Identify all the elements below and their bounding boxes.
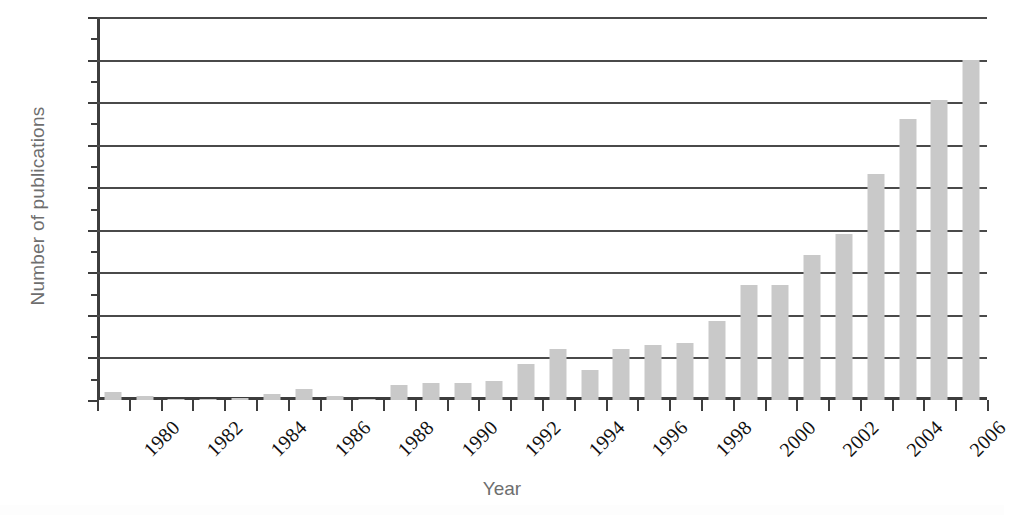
bar: [931, 100, 948, 400]
bar-slot: [478, 17, 510, 400]
bar-slot: [161, 17, 193, 400]
bar: [963, 60, 980, 400]
bar-slot: [733, 17, 765, 400]
bar: [104, 392, 121, 401]
x-tick-mark: [97, 400, 99, 411]
x-tick-mark: [415, 400, 417, 411]
x-tick-mark: [892, 400, 894, 411]
x-tick-label: 1988: [393, 416, 438, 461]
bar-slot: [765, 17, 797, 400]
y-tick-mark: [88, 17, 97, 19]
bar-slot: [256, 17, 288, 400]
bar: [232, 398, 249, 400]
bar-slot: [447, 17, 479, 400]
x-tick-mark: [192, 400, 194, 411]
bar: [613, 349, 630, 400]
bar: [327, 396, 344, 400]
x-tick-mark: [828, 400, 830, 411]
y-axis-title: Number of publications: [27, 76, 49, 336]
bar-slot: [828, 17, 860, 400]
x-tick-mark: [288, 400, 290, 411]
bar: [708, 321, 725, 400]
x-tick-label: 2006: [965, 416, 1010, 461]
bar: [168, 399, 185, 401]
x-tick-label: 2004: [902, 416, 947, 461]
y-tick-mark: [88, 187, 97, 189]
bar: [263, 394, 280, 400]
x-tick-mark: [574, 400, 576, 411]
bar-slot: [510, 17, 542, 400]
x-tick-mark: [669, 400, 671, 411]
bar: [772, 285, 789, 400]
bar: [581, 370, 598, 400]
bar: [645, 345, 662, 400]
bar-slot: [97, 17, 129, 400]
x-tick-mark: [224, 400, 226, 411]
bar-slot: [860, 17, 892, 400]
bar-slot: [669, 17, 701, 400]
x-tick-label: 1998: [711, 416, 756, 461]
x-tick-mark: [923, 400, 925, 411]
x-tick-mark: [383, 400, 385, 411]
x-tick-mark: [955, 400, 957, 411]
x-tick-mark: [542, 400, 544, 411]
x-tick-label: 2002: [838, 416, 883, 461]
bar: [835, 234, 852, 400]
y-tick-mark: [88, 315, 97, 317]
bar: [454, 383, 471, 400]
bar-slot: [288, 17, 320, 400]
bar-slot: [383, 17, 415, 400]
bar: [136, 396, 153, 400]
bar: [804, 255, 821, 400]
x-tick-label: 1986: [330, 416, 375, 461]
bar-slot: [637, 17, 669, 400]
x-tick-mark: [510, 400, 512, 411]
x-tick-mark: [606, 400, 608, 411]
bar: [549, 349, 566, 400]
bar: [740, 285, 757, 400]
bar: [295, 389, 312, 400]
bar-slot: [892, 17, 924, 400]
x-tick-mark: [637, 400, 639, 411]
page-bottom-margin: [0, 505, 1004, 515]
x-tick-mark: [447, 400, 449, 411]
x-tick-mark: [256, 400, 258, 411]
bar: [867, 174, 884, 400]
bar-slot: [129, 17, 161, 400]
x-tick-mark: [796, 400, 798, 411]
bar-slot: [955, 17, 987, 400]
bar-series: [97, 17, 987, 400]
x-tick-mark: [765, 400, 767, 411]
plot-area: 020406080100120140160180 198019821984198…: [97, 17, 987, 400]
bar-slot: [415, 17, 447, 400]
x-tick-mark: [478, 400, 480, 411]
bar-slot: [606, 17, 638, 400]
bar-slot: [351, 17, 383, 400]
y-tick-mark: [88, 102, 97, 104]
bar: [200, 399, 217, 401]
y-tick-mark: [88, 400, 97, 402]
x-tick-mark: [987, 400, 989, 411]
x-tick-label: 1990: [457, 416, 502, 461]
y-tick-mark: [88, 272, 97, 274]
x-tick-label: 1982: [203, 416, 248, 461]
x-tick-mark: [129, 400, 131, 411]
x-tick-label: 2000: [775, 416, 820, 461]
bar: [359, 399, 376, 401]
x-tick-mark: [701, 400, 703, 411]
bar-slot: [192, 17, 224, 400]
x-tick-mark: [161, 400, 163, 411]
y-tick-mark: [88, 230, 97, 232]
x-tick-label: 1994: [584, 416, 629, 461]
x-tick-mark: [860, 400, 862, 411]
bar: [677, 343, 694, 400]
bar-slot: [320, 17, 352, 400]
x-tick-mark: [733, 400, 735, 411]
bar: [518, 364, 535, 400]
bar-slot: [796, 17, 828, 400]
bar-slot: [224, 17, 256, 400]
x-tick-label: 1984: [266, 416, 311, 461]
x-tick-mark: [320, 400, 322, 411]
bar: [390, 385, 407, 400]
